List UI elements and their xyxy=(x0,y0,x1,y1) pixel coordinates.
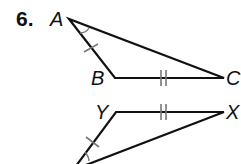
triangles-svg xyxy=(0,0,241,164)
triangle-xyz xyxy=(73,112,224,164)
triangle-abc xyxy=(69,19,224,78)
tick-mark-ab xyxy=(84,44,98,52)
angle-arc-a xyxy=(80,28,89,33)
geometry-figure: 6. A B C Y X xyxy=(0,0,241,164)
angle-arc-z xyxy=(85,152,89,161)
